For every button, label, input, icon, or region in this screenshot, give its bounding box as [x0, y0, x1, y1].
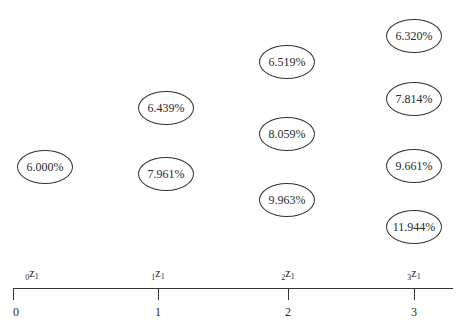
- node-t3-2: 9.661%: [386, 149, 442, 183]
- node-t2-1: 8.059%: [259, 117, 315, 151]
- node-t3-3: 11.944%: [386, 210, 442, 244]
- tick-label-1: 1: [155, 305, 161, 320]
- time-axis: [13, 288, 453, 289]
- tick-3: [414, 288, 415, 300]
- tick-label-3: 3: [411, 305, 417, 320]
- rate-label-2: 2z1: [281, 266, 294, 281]
- node-t3-1: 7.814%: [386, 82, 442, 116]
- node-t3-0: 6.320%: [386, 19, 442, 53]
- node-t1-0: 6.439%: [138, 91, 194, 125]
- node-t2-2: 9.963%: [259, 183, 315, 217]
- node-t0-0: 6.000%: [17, 150, 73, 184]
- tick-1: [158, 288, 159, 300]
- tick-2: [288, 288, 289, 300]
- rate-label-1: 1z1: [151, 266, 164, 281]
- tick-label-2: 2: [285, 305, 291, 320]
- node-t2-0: 6.519%: [259, 45, 315, 79]
- rate-label-0: 0z1: [25, 266, 38, 281]
- node-t1-1: 7.961%: [138, 157, 194, 191]
- tick-label-0: 0: [13, 305, 19, 320]
- rate-label-3: 3z1: [407, 266, 420, 281]
- tick-0: [13, 288, 14, 300]
